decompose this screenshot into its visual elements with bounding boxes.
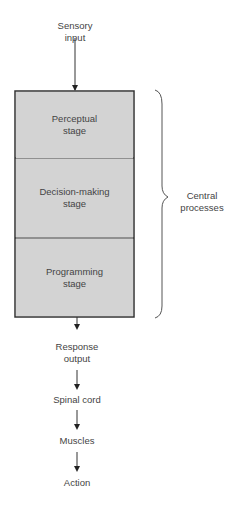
arrowhead-action bbox=[74, 466, 80, 472]
decision-making-stage-label: Decision-making stage bbox=[16, 186, 133, 210]
response-output-line1: Response bbox=[42, 341, 112, 353]
sensory-input-label: Sensory input bbox=[40, 20, 110, 44]
sensory-input-line1: Sensory bbox=[40, 20, 110, 32]
response-output-line2: output bbox=[42, 353, 112, 365]
decision-making-stage-box: Decision-making stage bbox=[16, 159, 133, 237]
arrowhead-response bbox=[74, 324, 80, 330]
programming-stage-box: Programming stage bbox=[16, 239, 133, 316]
arrowhead-spinal bbox=[74, 384, 80, 390]
sensory-input-line2: input bbox=[40, 32, 110, 44]
spinal-cord-label: Spinal cord bbox=[37, 394, 117, 406]
perceptual-stage-label: Perceptual stage bbox=[16, 113, 133, 137]
central-processes-line1: Central bbox=[172, 190, 232, 202]
arrowhead-muscles bbox=[74, 424, 80, 430]
central-processes-brace bbox=[155, 90, 168, 318]
programming-stage-label: Programming stage bbox=[16, 266, 133, 290]
response-output-label: Response output bbox=[42, 341, 112, 365]
muscles-label: Muscles bbox=[42, 435, 112, 447]
central-processes-label: Central processes bbox=[172, 190, 232, 214]
action-label: Action bbox=[42, 477, 112, 489]
perceptual-stage-box: Perceptual stage bbox=[16, 92, 133, 158]
arrowhead-input bbox=[72, 85, 78, 91]
central-processes-line2: processes bbox=[172, 202, 232, 214]
